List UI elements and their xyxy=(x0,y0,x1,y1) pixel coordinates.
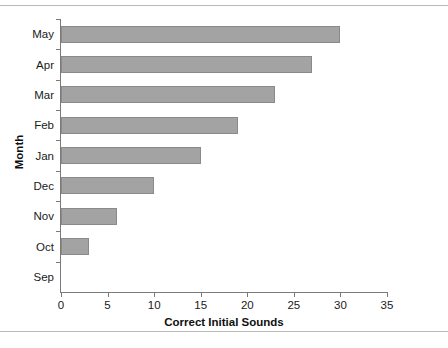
bottom-divider-rule xyxy=(0,331,448,332)
x-tick-mark-35 xyxy=(387,292,388,297)
x-tick-mark-30 xyxy=(340,292,341,297)
x-tick-mark-10 xyxy=(154,292,155,297)
x-tick-label-10: 10 xyxy=(139,299,169,311)
x-axis-line xyxy=(60,292,387,293)
y-tick-label-sep: Sep xyxy=(0,271,54,283)
y-tick-label-apr: Apr xyxy=(0,59,54,71)
y-tick-mark xyxy=(56,140,61,141)
y-tick-label-mar: Mar xyxy=(0,89,54,101)
chart-screenshot: SepOctNovDecJanFebMarAprMay 051015202530… xyxy=(0,0,448,348)
x-tick-mark-20 xyxy=(247,292,248,297)
x-tick-label-25: 25 xyxy=(279,299,309,311)
y-tick-label-feb: Feb xyxy=(0,119,54,131)
bar-oct xyxy=(61,238,89,255)
x-tick-label-5: 5 xyxy=(93,299,123,311)
y-tick-label-oct: Oct xyxy=(0,241,54,253)
y-tick-mark xyxy=(56,262,61,263)
x-tick-mark-0 xyxy=(61,292,62,297)
bar-dec xyxy=(61,177,154,194)
x-tick-mark-25 xyxy=(294,292,295,297)
bar-apr xyxy=(61,56,312,73)
y-tick-mark xyxy=(56,19,61,20)
y-tick-mark xyxy=(56,80,61,81)
y-tick-label-may: May xyxy=(0,28,54,40)
y-tick-mark xyxy=(56,231,61,232)
y-tick-mark xyxy=(56,171,61,172)
plot-area xyxy=(61,19,387,292)
bar-mar xyxy=(61,86,275,103)
x-tick-mark-5 xyxy=(108,292,109,297)
y-tick-label-nov: Nov xyxy=(0,210,54,222)
x-tick-mark-15 xyxy=(201,292,202,297)
x-tick-label-15: 15 xyxy=(186,299,216,311)
x-tick-label-30: 30 xyxy=(325,299,355,311)
y-tick-mark xyxy=(56,201,61,202)
bar-feb xyxy=(61,117,238,134)
bar-nov xyxy=(61,208,117,225)
y-axis-title: Month xyxy=(13,112,25,192)
top-divider-rule xyxy=(0,5,448,6)
y-tick-label-dec: Dec xyxy=(0,180,54,192)
y-tick-mark xyxy=(56,110,61,111)
bar-may xyxy=(61,26,340,43)
x-tick-label-0: 0 xyxy=(46,299,76,311)
x-axis-title: Correct Initial Sounds xyxy=(61,316,387,328)
y-tick-label-jan: Jan xyxy=(0,150,54,162)
x-tick-label-35: 35 xyxy=(372,299,402,311)
bar-jan xyxy=(61,147,201,164)
y-tick-mark xyxy=(56,49,61,50)
x-tick-label-20: 20 xyxy=(232,299,262,311)
